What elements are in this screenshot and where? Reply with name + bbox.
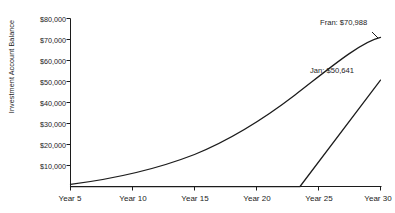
series-line-fran (71, 37, 381, 184)
x-tick-label: Year 10 (119, 194, 146, 203)
investment-balance-chart: Investment Account Balance $80,000 $70,0… (0, 0, 395, 213)
chart-plot-area (0, 0, 395, 213)
x-tick-label: Year 30 (364, 194, 391, 203)
series-label-fran: Fran: $70,988 (320, 18, 367, 27)
fran-label-leader (372, 32, 378, 38)
x-tick-label: Year 20 (243, 194, 270, 203)
y-axis-ticks (67, 19, 71, 166)
series-label-jan: Jan: $50,641 (310, 66, 354, 75)
x-tick-label: Year 5 (59, 194, 82, 203)
x-tick-label: Year 15 (181, 194, 208, 203)
x-tick-label: Year 25 (305, 194, 332, 203)
series-line-jan (71, 80, 381, 186)
